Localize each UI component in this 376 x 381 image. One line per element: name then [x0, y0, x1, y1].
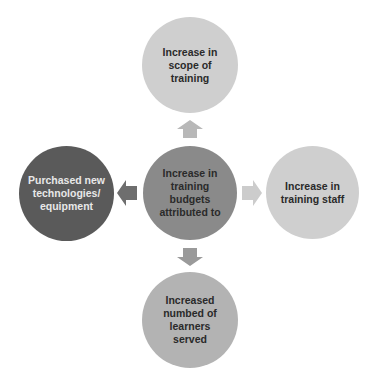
right-node-label: Increase in training staff — [277, 180, 349, 206]
top-node-label: Increase in scope of training — [155, 46, 225, 85]
left-node-label: Purchased new technologies/ equipment — [28, 174, 106, 213]
center-node-label: Increase in training budgets attributed … — [153, 167, 227, 219]
center-node: Increase in training budgets attributed … — [143, 146, 237, 240]
top-node: Increase in scope of training — [142, 17, 238, 113]
arrow-up-icon — [177, 120, 203, 138]
bottom-node: Increased numbed of learners served — [142, 272, 238, 368]
arrow-left-icon — [117, 180, 137, 206]
left-node: Purchased new technologies/ equipment — [19, 146, 114, 241]
right-node: Increase in training staff — [266, 146, 359, 239]
arrow-right-icon — [242, 180, 262, 206]
bottom-node-label: Increased numbed of learners served — [155, 294, 225, 346]
arrow-down-icon — [177, 248, 203, 266]
